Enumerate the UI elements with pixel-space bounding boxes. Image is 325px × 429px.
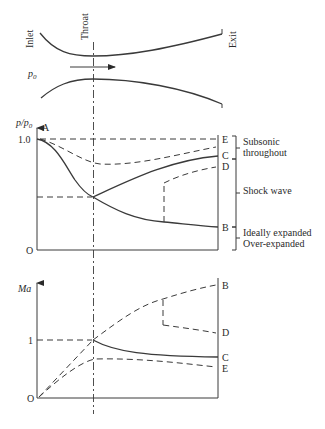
nozzle-lower-wall (41, 79, 222, 104)
bracket-expanded (232, 227, 240, 250)
region-over: Over-expanded (243, 238, 304, 249)
ma-curve-B (93, 285, 216, 340)
p-curve-C (93, 156, 218, 197)
ma-ylabel: Ma (17, 283, 31, 294)
ma-label-D: D (222, 327, 229, 338)
p-label-E: E (222, 134, 228, 145)
p-label-D: D (222, 161, 229, 172)
ma-curve-D (163, 325, 216, 333)
ma-curve-to-throat (39, 340, 93, 397)
throat-label: Throat (79, 13, 90, 40)
ma-label-E: E (222, 363, 228, 374)
ma-curve-C (93, 340, 218, 357)
ma-origin-label: O (27, 393, 34, 404)
exit-label: Exit (227, 31, 238, 48)
region-subsonic-2: throughout (243, 147, 287, 158)
p-label-B: B (222, 222, 229, 233)
ma-ytick-1: 1 (28, 335, 33, 346)
pressure-chart (37, 128, 218, 250)
bracket-subsonic (232, 136, 240, 159)
nozzle-shape (40, 29, 222, 108)
region-brackets (232, 136, 240, 250)
stagnation-pressure-label: p0 (27, 68, 37, 81)
nozzle-flow-diagram: Inlet Throat Exit p0 p/p0 A 1.0 O E C D … (0, 0, 325, 429)
p-ylabel: p/p0 (15, 117, 33, 130)
inlet-label: Inlet (24, 29, 35, 48)
p-curve-D (164, 167, 216, 183)
point-A-label: A (42, 122, 50, 133)
p-curve-A-throat (37, 139, 93, 197)
p-origin-label: O (26, 245, 33, 256)
mach-chart (37, 278, 218, 398)
p-ytick-1: 1.0 (18, 134, 31, 145)
ma-label-C: C (222, 352, 229, 363)
ma-label-B: B (222, 280, 229, 291)
region-ideal: Ideally expanded (243, 227, 312, 238)
p-label-C: C (222, 150, 229, 161)
ma-curve-E (39, 359, 216, 397)
bracket-shock (232, 159, 240, 227)
nozzle-upper-wall (40, 33, 222, 56)
p-curve-B (93, 197, 218, 227)
region-shock: Shock wave (243, 185, 292, 196)
region-subsonic-1: Subsonic (243, 136, 280, 147)
